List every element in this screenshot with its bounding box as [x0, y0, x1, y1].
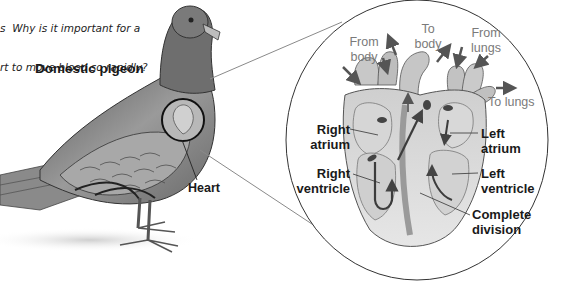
- pigeon-heart-diagram: s Why is it important for a rt to move b…: [0, 0, 562, 283]
- left-ventricle-label: Left ventricle: [481, 166, 534, 196]
- right-atrium-label: Right atrium: [300, 122, 350, 152]
- right-ventricle-label: Right ventricle: [290, 166, 350, 196]
- left-atrium-label: Left atrium: [481, 126, 521, 156]
- from-lungs-label: From lungs: [464, 26, 508, 56]
- heart-label: Heart: [188, 181, 220, 196]
- to-body-label: To body: [408, 22, 448, 52]
- domestic-pigeon-label: Domestic pigeon: [35, 61, 144, 76]
- to-lungs-label: To lungs: [488, 95, 535, 110]
- from-body-label: From body: [344, 35, 384, 65]
- complete-division-label: Complete division: [472, 207, 531, 237]
- question-line-1: s Why is it important for a: [0, 22, 148, 35]
- question-text: s Why is it important for a rt to move b…: [0, 0, 148, 100]
